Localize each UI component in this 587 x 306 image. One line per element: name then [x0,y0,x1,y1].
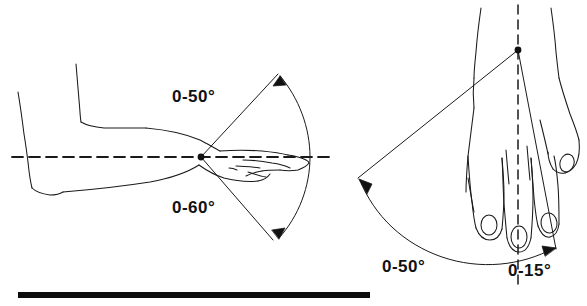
figure-canvas: 0-50° 0-60° 0-50° 0-15° [0,0,587,306]
dorsal-wrist-pivot-point [515,47,522,54]
wrist-range-of-motion-illustration [0,0,587,306]
lateral-wrist-pivot-point [198,154,205,161]
radial-deviation-angle-label: 0-15° [508,262,551,279]
ulnar-deviation-angle-label: 0-50° [382,258,425,275]
bottom-rule-bar [18,292,370,298]
extension-angle-label: 0-50° [172,88,215,105]
flexion-angle-label: 0-60° [172,199,215,216]
background [0,0,587,306]
